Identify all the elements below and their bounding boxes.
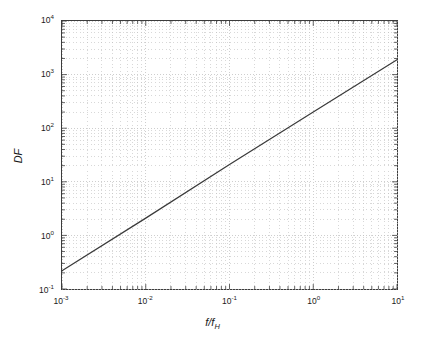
x-tick-exponent-1: -2 (147, 294, 153, 301)
x-tick-label-3: 100 (294, 296, 334, 306)
y-tick-label-3: 101 (18, 177, 54, 187)
y-axis-title: DF (12, 149, 24, 164)
x-tick-label-1: 10-2 (125, 296, 165, 306)
y-tick-exponent-1: 3 (51, 67, 54, 74)
y-tick-exponent-2: 2 (51, 121, 54, 128)
y-tick-base-2: 10 (41, 123, 50, 133)
x-tick-base-3: 10 (307, 296, 316, 306)
x-tick-label-0: 10-3 (41, 296, 81, 306)
plot-area (61, 20, 398, 290)
y-tick-base-1: 10 (41, 69, 50, 79)
y-tick-label-2: 102 (18, 123, 54, 133)
y-tick-label-5: 10-1 (18, 285, 54, 295)
x-tick-base-4: 10 (392, 296, 401, 306)
y-tick-label-4: 100 (18, 231, 54, 241)
y-tick-exponent-4: 0 (51, 229, 54, 236)
x-axis-title: f/fH (0, 316, 425, 328)
y-tick-exponent-3: 1 (51, 175, 54, 182)
x-tick-exponent-0: -3 (63, 294, 69, 301)
data-series-line (62, 21, 397, 289)
y-tick-base-3: 10 (41, 177, 50, 187)
x-tick-label-4: 101 (378, 296, 418, 306)
x-tick-label-2: 10-1 (210, 296, 250, 306)
x-tick-exponent-2: -1 (231, 294, 237, 301)
x-tick-base-0: 10 (54, 296, 63, 306)
y-tick-exponent-0: 4 (51, 13, 54, 20)
x-tick-base-1: 10 (138, 296, 147, 306)
y-tick-base-0: 10 (41, 15, 50, 25)
figure-canvas: DF 10410310210110010-1 10-310-210-110010… (0, 0, 425, 342)
x-axis-title-subscript: H (214, 322, 219, 331)
y-tick-label-1: 103 (18, 69, 54, 79)
y-tick-exponent-5: -1 (48, 283, 54, 290)
y-tick-base-4: 10 (41, 231, 50, 241)
y-tick-label-0: 104 (18, 15, 54, 25)
x-tick-exponent-3: 0 (317, 294, 320, 301)
x-tick-exponent-4: 1 (401, 294, 404, 301)
